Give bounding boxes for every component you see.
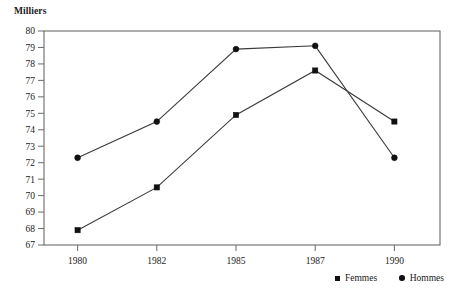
y-tick-label: 68 [26, 224, 36, 234]
x-tick-label: 1987 [306, 256, 325, 266]
data-point-square-marker [75, 228, 80, 233]
y-axis-tick-marks [38, 31, 44, 245]
x-axis-tick-labels: 19801982198519871990 [68, 256, 404, 266]
series-hommes [75, 43, 398, 161]
x-tick-label: 1985 [227, 256, 246, 266]
x-tick-label: 1982 [147, 256, 166, 266]
y-tick-label: 74 [26, 125, 36, 135]
line-chart: 6768697071727374757677787980 19801982198… [0, 0, 460, 289]
legend-item-femmes: Femmes [335, 273, 377, 283]
data-point-square-marker [154, 185, 159, 190]
y-tick-label: 71 [26, 175, 36, 185]
y-tick-label: 69 [26, 207, 36, 217]
y-tick-label: 75 [26, 109, 36, 119]
data-point-circle-marker [75, 155, 81, 161]
data-point-circle-marker [233, 46, 239, 52]
data-point-square-marker [233, 112, 238, 117]
chart-legend: Femmes Hommes [335, 273, 444, 283]
series-line [78, 46, 395, 158]
x-tick-label: 1990 [385, 256, 404, 266]
x-axis-tick-marks [78, 245, 395, 251]
y-tick-label: 79 [26, 43, 36, 53]
y-tick-label: 72 [26, 158, 36, 168]
legend-item-hommes: Hommes [399, 273, 444, 283]
circle-marker-icon [399, 275, 405, 281]
y-tick-label: 76 [26, 92, 36, 102]
chart-page: Milliers 6768697071727374757677787980 19… [0, 0, 460, 289]
series-layer [75, 43, 398, 233]
legend-label-hommes: Hommes [410, 273, 444, 283]
data-point-square-marker [392, 119, 397, 124]
y-tick-label: 67 [26, 240, 36, 250]
series-line [78, 71, 395, 231]
y-axis-tick-labels: 6768697071727374757677787980 [26, 26, 36, 250]
x-tick-label: 1980 [68, 256, 87, 266]
y-tick-label: 77 [26, 76, 36, 86]
legend-label-femmes: Femmes [345, 273, 377, 283]
y-tick-label: 78 [26, 59, 36, 69]
data-point-square-marker [313, 68, 318, 73]
square-marker-icon [335, 276, 340, 281]
data-point-circle-marker [312, 43, 318, 49]
y-tick-label: 73 [26, 142, 36, 152]
y-tick-label: 80 [26, 26, 36, 36]
y-tick-label: 70 [26, 191, 36, 201]
data-point-circle-marker [154, 119, 160, 125]
data-point-circle-marker [392, 155, 398, 161]
